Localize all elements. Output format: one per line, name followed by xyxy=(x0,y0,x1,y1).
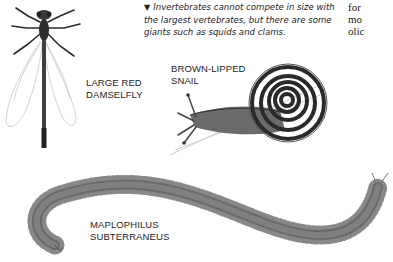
centipede-illustration xyxy=(0,165,393,262)
body-line: olic xyxy=(348,25,393,37)
centipede-label: MAPLOPHILUS SUBTERRANEUS xyxy=(90,219,169,243)
damselfly-illustration xyxy=(0,0,90,175)
triangle-marker-icon: ▼ xyxy=(144,3,150,12)
body-line: mo xyxy=(348,13,393,25)
body-line: for xyxy=(348,1,393,13)
damselfly-label: LARGE RED DAMSELFLY xyxy=(86,77,143,101)
caption-text: Invertebrates cannot compete in size wit… xyxy=(144,2,335,37)
body-text-fragment: for mo olic xyxy=(348,1,393,37)
snail-label: BROWN-LIPPED SNAIL xyxy=(171,63,246,87)
figure-caption: ▼Invertebrates cannot compete in size wi… xyxy=(144,1,344,38)
